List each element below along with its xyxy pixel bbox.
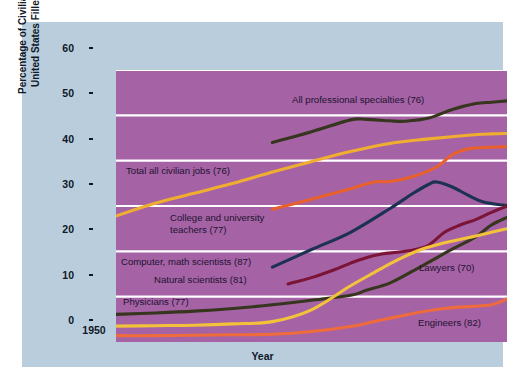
annotation-natural-scientists: Natural scientists (81) [154, 274, 247, 286]
x-axis-label: Year [0, 350, 525, 362]
annotation-college-and-university-teachers: College and university teachers (77) [170, 212, 264, 235]
y-tick-mark [89, 92, 93, 94]
y-tick-mark [89, 319, 93, 321]
series-line [272, 147, 507, 210]
y-tick-mark [89, 138, 93, 140]
annotation-physicians: Physicians (77) [123, 296, 189, 308]
y-tick-mark [89, 274, 93, 276]
chart-frame: Percentage of Civilian Jobs in the Unite… [22, 22, 503, 367]
y-axis-label: Percentage of Civilian Jobs in the Unite… [16, 0, 42, 114]
figure-root: Percentage of Civilian Jobs in the Unite… [0, 0, 525, 391]
plot-area: All professional specialties (76)Total a… [116, 70, 507, 342]
y-tick-label: 60 [48, 42, 74, 54]
annotation-lawyers: Lawyers (70) [419, 262, 474, 274]
y-tick-mark [89, 228, 93, 230]
y-tick-label: 10 [48, 269, 74, 281]
y-axis-label-line1: Percentage of Civilian Jobs in the [16, 0, 29, 114]
y-tick-label: 0 [48, 314, 74, 326]
y-tick-mark [89, 183, 93, 185]
y-tick-label: 50 [48, 87, 74, 99]
x-tick-label: 1950 [72, 324, 116, 336]
y-tick-label: 30 [48, 178, 74, 190]
annotation-all-professional-specialties: All professional specialties (76) [292, 94, 424, 106]
annotation-total-all-civilian-jobs: Total all civilian jobs (76) [126, 165, 230, 177]
y-axis-label-line2: United States Filled by Women [29, 0, 42, 114]
y-tick-label: 20 [48, 223, 74, 235]
annotation-engineers: Engineers (82) [418, 317, 481, 329]
y-tick-label: 40 [48, 133, 74, 145]
annotation-computer-math-scientists: Computer, math scientists (87) [121, 256, 251, 268]
y-tick-mark [89, 47, 93, 49]
